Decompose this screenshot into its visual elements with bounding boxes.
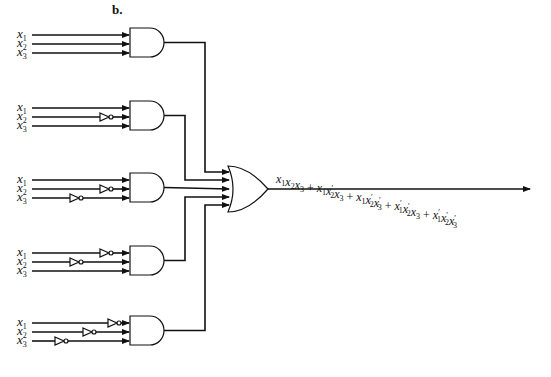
not-gate-x2 xyxy=(100,185,109,193)
not-gate-x2 xyxy=(83,328,92,336)
or-input-wire xyxy=(164,205,229,331)
panel-label: b. xyxy=(112,2,122,17)
and-gate-2: x1x2x3 xyxy=(16,99,229,180)
output-expression: x1x2x3 + x1x′2x3 + x1x′2x′3 + x′1x′2x3 +… xyxy=(275,172,457,230)
logic-circuit-diagram: b. x1x2x3x1x2x3x1x2x3x1x2x3x1x2x3 x1x2x3… xyxy=(0,0,551,377)
not-gate-x3 xyxy=(70,194,79,202)
or-input-wire xyxy=(164,188,229,190)
not-gate-x2 xyxy=(70,258,79,266)
and-gate-3: x1x2x3 xyxy=(16,171,229,206)
not-gate-x3 xyxy=(55,337,64,345)
or-gate xyxy=(228,166,268,212)
or-input-wire xyxy=(164,116,229,181)
and-gate-5: x1x2x3 xyxy=(16,205,229,349)
not-gate-x1 xyxy=(100,249,109,257)
not-gate-x2 xyxy=(100,113,109,121)
or-input-wire xyxy=(164,197,229,261)
or-input-wire xyxy=(164,43,229,173)
and-gate-4: x1x2x3 xyxy=(16,197,229,279)
not-gate-x1 xyxy=(108,319,117,327)
and-gate-1: x1x2x3 xyxy=(16,26,229,172)
